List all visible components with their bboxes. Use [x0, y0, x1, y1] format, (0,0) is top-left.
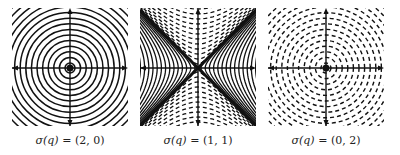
caption-signature-2-0: σ(q) = (2, 0) [5, 134, 135, 147]
origin-dot [67, 65, 74, 72]
caption-rhs: (0, 2) [331, 134, 361, 147]
panel-signature-1-1 [140, 8, 256, 126]
caption-signature-1-1: σ(q) = (1, 1) [133, 134, 263, 147]
hyperbola-plot [140, 8, 256, 126]
panel-signature-0-2 [268, 8, 384, 126]
caption-lhs: σ(q) [164, 134, 187, 147]
caption-equals: = [187, 134, 203, 147]
concentric-circles-plot [12, 8, 128, 126]
arrow-up-icon [68, 8, 73, 14]
arrow-up-icon [324, 8, 329, 14]
origin-dot [323, 65, 330, 72]
caption-equals: = [59, 134, 75, 147]
caption-lhs: σ(q) [292, 134, 315, 147]
caption-lhs: σ(q) [36, 134, 59, 147]
arrow-down-icon [196, 120, 201, 126]
caption-signature-0-2: σ(q) = (0, 2) [261, 134, 391, 147]
panel-signature-2-0 [12, 8, 128, 126]
caption-rhs: (1, 1) [203, 134, 233, 147]
caption-rhs: (2, 0) [75, 134, 105, 147]
dashed-circles-plot [268, 8, 384, 126]
caption-equals: = [315, 134, 331, 147]
